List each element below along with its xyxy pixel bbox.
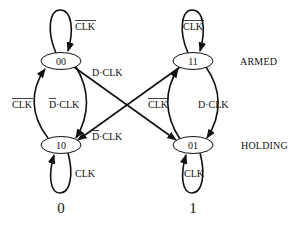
label-loop-01: CLK [184,168,205,179]
state-00: 00 [41,53,81,70]
row-label-armed: ARMED [240,56,277,67]
label-loop-11: CLK [183,21,204,32]
state-diagram: 00 11 10 01 CLK CLK CLK D ·CLK D·CLK D ·… [0,0,296,225]
label-loop-00: CLK [75,21,96,32]
state-10-label: 10 [56,140,66,151]
label-01-to-11: CLK [148,99,169,110]
row-label-holding: HOLDING [241,140,288,151]
state-01-label: 01 [188,140,198,151]
state-11-label: 11 [188,56,198,67]
label-00-to-01: D·CLK [92,67,123,78]
state-01: 01 [173,137,213,154]
column-label-0: 0 [57,200,65,216]
label-loop-10: CLK [75,168,96,179]
label-11-to-01: D·CLK [198,99,229,110]
self-loop-00 [50,10,71,53]
column-label-1: 1 [189,200,197,216]
edge-10-to-00 [34,69,48,138]
state-00-label: 00 [56,56,66,67]
self-loop-10 [51,153,71,193]
edge-01-to-11 [168,69,180,139]
label-11-to-10-rest: ·CLK [99,131,123,142]
label-00-to-10-rest: ·CLK [56,99,80,110]
state-10: 10 [41,137,81,154]
label-10-to-00: CLK [12,99,33,110]
state-11: 11 [173,53,213,70]
